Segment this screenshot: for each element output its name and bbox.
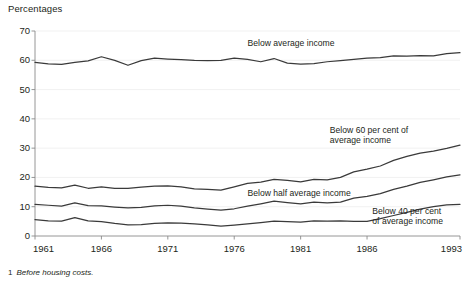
y-axis-tick-label: 40 — [8, 113, 30, 124]
y-axis-tick-label: 0 — [8, 230, 30, 241]
y-axis-tick-label: 20 — [8, 171, 30, 182]
series-line-1 — [35, 145, 460, 190]
y-axis-tick-label: 50 — [8, 84, 30, 95]
x-axis-tick-label: 1966 — [91, 243, 112, 254]
y-axis-tick-label: 10 — [8, 201, 30, 212]
y-axis-tick-label: 70 — [8, 25, 30, 36]
footnote: 1Before housing costs. — [8, 268, 93, 277]
footnote-text: Before housing costs. — [16, 268, 93, 277]
series-line-0 — [35, 53, 460, 66]
series-label-2: Below half average income — [248, 188, 351, 198]
chart-root: Percentages 010203040506070 196119661971… — [0, 0, 476, 284]
series-label-1: Below 60 per cent of average income — [330, 125, 408, 145]
y-axis-tick-label: 30 — [8, 142, 30, 153]
series-label-0: Below average income — [248, 38, 335, 48]
x-axis-tick-label: 1961 — [33, 243, 54, 254]
x-axis-tick-label: 1981 — [290, 243, 311, 254]
series-label-3: Below 40 per cent of average income — [372, 206, 443, 226]
y-axis-tick-label: 60 — [8, 54, 30, 65]
x-axis-tick-label: 1993 — [441, 243, 462, 254]
x-axis-tick-label: 1976 — [224, 243, 245, 254]
x-axis-tick-label: 1986 — [356, 243, 377, 254]
x-axis-tick-label: 1971 — [157, 243, 178, 254]
footnote-marker: 1 — [8, 268, 12, 277]
